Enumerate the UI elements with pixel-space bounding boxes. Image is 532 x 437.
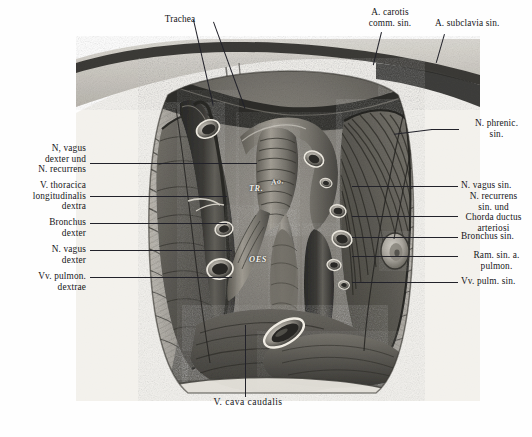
- label-vv-pulm-sin: Vv. pulm. sin.: [461, 276, 532, 287]
- label-n-vagus-dexter: N. vagus dexter: [0, 244, 86, 265]
- leader-n-vagus-dexter: [90, 250, 114, 251]
- leader-n-phrenic-sin: [431, 129, 459, 130]
- leader-bronchus-dexter: [90, 223, 114, 224]
- label-n-vagus-sin: N. vagus sin.: [461, 180, 532, 191]
- label-n-vagus-dexter-und-n-recurrens: N, vagus dexter und N. recurrens: [0, 143, 86, 175]
- leader-bronchus-dexter-tail: [112, 223, 227, 224]
- label-a-subclavia-sin: A. subclavia sin.: [435, 18, 531, 29]
- leader-vv-pulm-sin: [432, 282, 458, 283]
- label-bronchus-sin: Bronchus sin.: [461, 231, 532, 242]
- label-aorta-abbrev: Ao.: [270, 176, 284, 187]
- leader-ram-sin-a-pulmon-tail: [352, 256, 434, 257]
- leader-n-vagus-dexter-und-n-recurrens-tail: [112, 163, 257, 164]
- anatomical-plate: Trachea A. carotis comm. sin. A. subclav…: [0, 0, 532, 437]
- leader-n-vagus-dexter-tail: [112, 250, 232, 251]
- leader-vv-pulmon-dextrae-tail: [112, 277, 232, 278]
- leader-v-thoracica-longitudinalis-dextra: [90, 196, 114, 197]
- leader-n-vagus-sin: [430, 186, 458, 187]
- label-oesophagus-abbrev: OES: [249, 255, 267, 264]
- label-trachea-abbrev: TR.: [249, 184, 263, 193]
- label-trachea: Trachea: [140, 14, 220, 25]
- leader-n-vagus-dexter-und-n-recurrens: [90, 163, 114, 164]
- leader-v-thoracica-longitudinalis-dextra-tail: [112, 196, 227, 197]
- label-ram-sin-a-pulmon: Ram. sin. a. pulmon.: [461, 250, 532, 271]
- label-n-phrenic-sin: N. phrenic. sin.: [461, 118, 532, 139]
- label-a-carotis-comm-sin: A. carotis comm. sin.: [350, 7, 430, 28]
- leader-v-cava-caudalis: [245, 325, 246, 397]
- leader-vv-pulmon-dextrae: [90, 277, 114, 278]
- label-v-thoracica-longitudinalis-dextra: V. thoracica longitudinalis dextra: [0, 180, 86, 212]
- illustration-figure: [76, 33, 480, 401]
- leader-bronchus-sin: [432, 237, 458, 238]
- leader-vv-pulm-sin-tail: [352, 282, 434, 283]
- leader-chorda-ductus-arteriosi-tail: [352, 216, 434, 217]
- label-v-cava-caudalis: V. cava caudalis: [188, 396, 308, 407]
- leader-ram-sin-a-pulmon: [432, 256, 458, 257]
- label-vv-pulmon-dextrae: Vv. pulmon. dextrae: [0, 271, 86, 292]
- leader-n-vagus-sin-tail: [352, 186, 432, 187]
- label-n-recurrens-sin-und-chorda-ductus-arteriosi: N. recurrens sin. und Chorda ductus arte…: [455, 191, 532, 233]
- label-bronchus-dexter: Bronchus dexter: [0, 217, 86, 238]
- leader-bronchus-sin-tail: [352, 237, 434, 238]
